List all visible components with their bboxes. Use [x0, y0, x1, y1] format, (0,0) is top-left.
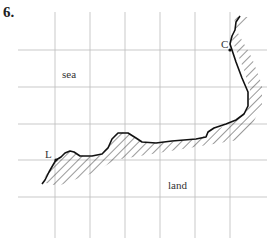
label-point-l: L — [45, 148, 52, 160]
land-hatching — [42, 17, 262, 186]
label-land: land — [168, 179, 187, 191]
label-point-c: C — [221, 38, 228, 50]
label-sea: sea — [62, 68, 76, 80]
point-l-marker — [54, 158, 57, 161]
coastline-diagram: C L sea land — [0, 0, 273, 245]
point-c-marker — [228, 48, 231, 51]
